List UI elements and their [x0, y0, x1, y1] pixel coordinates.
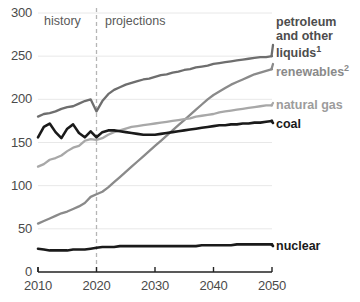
- renewables-footnote-marker: 2: [344, 63, 349, 73]
- projections-label: projections: [105, 14, 165, 28]
- x-tick-label: 2010: [8, 278, 68, 293]
- x-tick-label: 2030: [125, 278, 185, 293]
- renewables-label-text: renewables: [276, 65, 344, 79]
- y-tick-label: 100: [0, 178, 32, 193]
- y-tick-label: 50: [0, 221, 32, 236]
- label-leader-lines: [272, 45, 274, 246]
- gridlines: [38, 13, 272, 229]
- petroleum-label-line1: petroleum: [276, 15, 336, 29]
- y-tick-label: 250: [0, 48, 32, 63]
- energy-consumption-chart: 050100150200250300 20102020203020402050 …: [0, 0, 360, 302]
- petroleum-footnote-marker: 1: [316, 44, 321, 54]
- series-label-renewables: renewables2: [276, 62, 349, 80]
- series-label-natural-gas: natural gas: [276, 99, 343, 113]
- axes: [38, 267, 272, 272]
- petroleum-label-line2: and other: [276, 29, 333, 43]
- x-tick-label: 2040: [184, 278, 244, 293]
- history-label: history: [44, 14, 81, 28]
- series-lines: [38, 56, 272, 250]
- series-label-petroleum: petroleum and other liquids1: [276, 16, 336, 61]
- y-tick-label: 300: [0, 5, 32, 20]
- x-tick-label: 2020: [67, 278, 127, 293]
- y-tick-label: 200: [0, 91, 32, 106]
- series-label-coal: coal: [276, 118, 301, 132]
- y-tick-label: 0: [0, 264, 32, 279]
- y-tick-label: 150: [0, 135, 32, 150]
- petroleum-label-line3: liquids: [276, 46, 316, 60]
- x-tick-label: 2050: [242, 278, 302, 293]
- series-label-nuclear: nuclear: [276, 240, 320, 254]
